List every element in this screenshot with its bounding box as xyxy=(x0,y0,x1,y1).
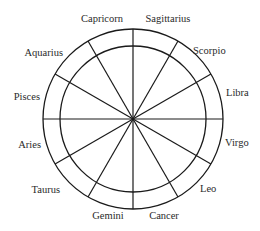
spoke-line xyxy=(55,119,133,164)
sign-label-capricorn: Capricorn xyxy=(81,13,124,24)
sign-label-scorpio: Scorpio xyxy=(193,45,226,56)
sign-label-aquarius: Aquarius xyxy=(25,47,64,58)
sign-label-leo: Leo xyxy=(200,183,216,194)
sign-label-cancer: Cancer xyxy=(149,210,179,221)
spoke-line xyxy=(133,119,211,164)
sign-label-pisces: Pisces xyxy=(14,91,40,102)
spoke-line xyxy=(133,41,178,119)
sign-label-virgo: Virgo xyxy=(225,137,249,148)
spoke-line xyxy=(55,74,133,119)
spokes xyxy=(43,29,223,209)
sign-label-libra: Libra xyxy=(226,87,249,98)
spoke-line xyxy=(133,74,211,119)
sign-label-taurus: Taurus xyxy=(32,184,60,195)
sign-label-sagittarius: Sagittarius xyxy=(146,13,191,24)
spoke-line xyxy=(88,119,133,197)
sign-label-gemini: Gemini xyxy=(92,210,124,221)
spoke-line xyxy=(88,41,133,119)
spoke-line xyxy=(133,119,178,197)
zodiac-wheel-svg: Sagittarius Scorpio Libra Virgo Leo Canc… xyxy=(0,0,260,231)
sign-label-aries: Aries xyxy=(18,139,41,150)
zodiac-wheel-diagram: Sagittarius Scorpio Libra Virgo Leo Canc… xyxy=(0,0,260,231)
